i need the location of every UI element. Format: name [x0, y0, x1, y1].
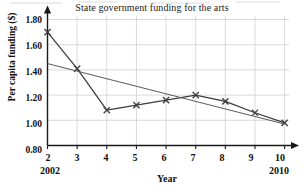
gridlines: [48, 17, 290, 146]
x-axis-arrowhead: [291, 142, 299, 149]
plot-area: [0, 0, 304, 191]
chart-figure: State government funding for the arts Pe…: [0, 0, 304, 191]
y-axis-arrowhead: [44, 6, 51, 14]
axis-lines: [44, 6, 299, 150]
